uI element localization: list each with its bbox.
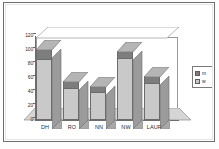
bar-shadow <box>133 119 143 129</box>
chart-plot-area: 120 100 80 60 40 <box>12 25 187 130</box>
x-label-NN: NN <box>86 124 112 130</box>
y-tick-mark <box>33 103 36 104</box>
bar-column-LAUF[interactable] <box>144 76 160 120</box>
legend-item-m[interactable]: m <box>195 69 211 77</box>
bar-column-DH[interactable] <box>36 49 52 120</box>
bar-segment-m[interactable] <box>90 86 106 93</box>
bar-column-NN[interactable] <box>90 86 106 120</box>
x-label-LAUF: LAUF <box>140 124 168 130</box>
bar-column-RO[interactable] <box>63 81 79 120</box>
bar-top-face <box>36 40 61 49</box>
bar-segment-w[interactable] <box>90 92 106 120</box>
y-tick-mark <box>33 61 36 62</box>
bar-shadow <box>52 119 62 129</box>
bar-segment-w[interactable] <box>36 59 52 120</box>
y-tick-label: 0 <box>30 117 33 122</box>
bar-top-face <box>63 72 88 81</box>
plot-back-wall <box>36 37 178 120</box>
bar-side-face <box>79 81 88 120</box>
x-axis <box>35 120 179 121</box>
plot-floor <box>24 108 190 126</box>
bar-shadow <box>160 119 170 129</box>
bar-top-face <box>90 77 115 86</box>
bar-segment-w[interactable] <box>117 58 133 120</box>
y-tick-label: 60 <box>28 75 33 80</box>
bar-top-face <box>117 42 142 51</box>
bar-segment-m[interactable] <box>144 76 160 84</box>
y-tick-mark <box>33 33 36 34</box>
y-tick-mark <box>33 89 36 90</box>
y-tick-label: 100 <box>25 47 33 52</box>
bar-segment-m[interactable] <box>117 51 133 59</box>
chart-frame: 120 100 80 60 40 <box>3 2 215 142</box>
y-tick-mark <box>33 117 36 118</box>
bar-series-group <box>12 25 187 130</box>
bar-top-face <box>144 67 169 76</box>
bar-shadow <box>79 119 89 129</box>
bar-side-face <box>106 86 115 120</box>
y-tick-label: 120 <box>25 33 33 38</box>
legend-label-w: w <box>202 79 206 84</box>
plot-ceiling <box>36 27 179 38</box>
bar-side-face <box>52 49 61 120</box>
legend-swatch-w-icon <box>195 79 200 84</box>
legend-swatch-m-icon <box>195 71 200 76</box>
legend-label-m: m <box>202 71 206 76</box>
y-tick-label: 40 <box>28 89 33 94</box>
chart-screenshot: 120 100 80 60 40 <box>0 0 219 149</box>
bar-shadow <box>106 119 116 129</box>
x-label-DH: DH <box>32 124 58 130</box>
y-tick-mark <box>33 47 36 48</box>
legend-item-w[interactable]: w <box>195 77 211 85</box>
y-tick-mark <box>33 75 36 76</box>
y-tick-label: 80 <box>28 61 33 66</box>
y-axis-ticks: 120 100 80 60 40 <box>35 36 36 121</box>
bar-segment-m[interactable] <box>63 81 79 89</box>
bar-segment-w[interactable] <box>144 83 160 120</box>
bar-segment-m[interactable] <box>36 49 52 60</box>
x-label-NW: NW <box>113 124 139 130</box>
bar-side-face <box>133 51 142 120</box>
y-tick-label: 20 <box>28 103 33 108</box>
bar-segment-w[interactable] <box>63 88 79 120</box>
y-axis <box>35 36 36 121</box>
bar-side-face <box>160 76 169 120</box>
chart-legend[interactable]: m w <box>192 66 213 88</box>
bar-column-NW[interactable] <box>117 51 133 120</box>
x-label-RO: RO <box>59 124 85 130</box>
